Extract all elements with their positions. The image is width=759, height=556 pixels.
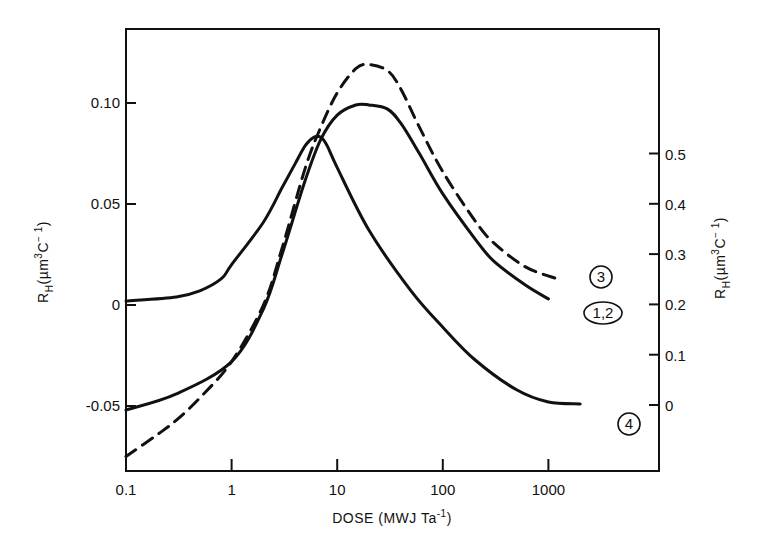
x-tick-label: 10 — [329, 481, 346, 498]
left-y-axis-title: RH(µm3C− 1) — [33, 221, 55, 303]
left-y-axis-ticks: 0.100.050-0.05 — [86, 94, 136, 414]
left-y-tick-label: 0 — [112, 296, 120, 313]
x-tick-label: 1 — [227, 481, 235, 498]
x-axis-title: DOSE (MWJ Ta-1) — [332, 508, 452, 526]
right-y-tick-label: 0.4 — [665, 196, 686, 213]
right-y-tick-label: 0 — [665, 397, 673, 414]
left-y-tick-label: -0.05 — [86, 397, 120, 414]
curve-4 — [126, 136, 580, 404]
right-y-tick-label: 0.3 — [665, 246, 686, 263]
right-y-tick-label: 0.1 — [665, 347, 686, 364]
x-tick-label: 0.1 — [116, 481, 137, 498]
right-y-tick-label: 0.2 — [665, 296, 686, 313]
curve-1-2 — [126, 104, 548, 410]
left-y-tick-label: 0.05 — [91, 195, 120, 212]
curve-label-3: 3 — [590, 266, 612, 288]
x-tick-label: 1000 — [532, 481, 565, 498]
x-tick-label: 100 — [430, 481, 455, 498]
x-axis-ticks: 0.11101001000 — [116, 459, 566, 498]
svg-text:4: 4 — [625, 415, 633, 432]
left-y-tick-label: 0.10 — [91, 94, 120, 111]
curves-group — [126, 64, 580, 456]
curve-label-4: 4 — [618, 413, 640, 435]
svg-text:1,2: 1,2 — [593, 304, 614, 321]
svg-text:3: 3 — [597, 268, 605, 285]
right-y-tick-label: 0.5 — [665, 146, 686, 163]
curve-label-1-2: 1,2 — [584, 302, 622, 324]
chart-canvas: 0.11101001000 0.100.050-0.05 0.50.40.30.… — [0, 0, 759, 556]
right-y-axis-ticks: 0.50.40.30.20.10 — [649, 146, 686, 415]
right-y-axis-title: RH(µm3C− 1) — [710, 217, 732, 299]
